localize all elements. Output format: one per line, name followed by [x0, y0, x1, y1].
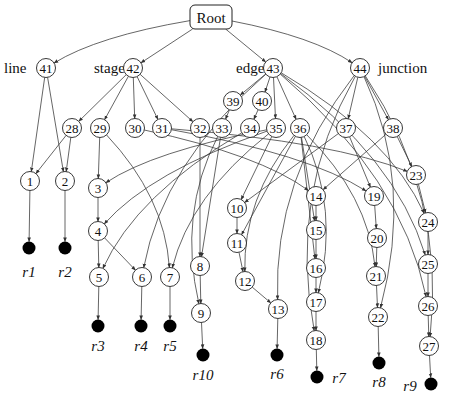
edge-38-to-23: [397, 137, 412, 167]
node-label: 42: [127, 61, 140, 76]
sink-r9: r9: [403, 378, 437, 395]
node-label: 27: [423, 339, 437, 354]
node-29: 29: [91, 119, 110, 138]
node-label: 30: [129, 121, 142, 136]
edge-42-to-28: [79, 75, 126, 122]
node-label: 28: [66, 121, 79, 136]
edge-41-to-1: [31, 77, 44, 171]
edge-root-to-43: [226, 29, 266, 62]
node-label: 34: [244, 121, 258, 136]
sink-label: r4: [134, 338, 148, 354]
sink-r8: r8: [372, 357, 386, 391]
node-15: 15: [307, 221, 326, 240]
sink-label: r9: [403, 378, 417, 394]
node-24: 24: [419, 213, 438, 232]
node-4: 4: [89, 222, 108, 241]
group-label-edge: edge: [236, 60, 265, 76]
edge-43-to-40: [265, 77, 270, 92]
edge-29-to-3: [98, 138, 99, 179]
edge-28-to-1: [36, 135, 66, 173]
edge-36-to-12: [245, 135, 294, 271]
edge-42-to-31: [137, 77, 158, 120]
node-label: 18: [310, 333, 323, 348]
node-label: 11: [231, 236, 244, 251]
node-34: 34: [241, 119, 260, 138]
edge-43-to-35: [274, 78, 276, 119]
node-label: 43: [267, 61, 280, 76]
edge-40-to-34: [254, 110, 258, 120]
edge-22-to-r8: [378, 327, 379, 357]
edge-28-to-2: [66, 137, 71, 171]
sink-label: r6: [270, 366, 284, 382]
sink-dot: [271, 349, 284, 362]
node-10: 10: [228, 199, 247, 218]
sink-dot: [197, 349, 210, 362]
edge-21-to-22: [377, 286, 378, 308]
sink-label: r8: [372, 374, 386, 390]
node-label: 24: [422, 215, 436, 230]
node-label: 41: [40, 61, 53, 76]
node-label: 3: [95, 181, 102, 196]
edge-43-to-6: [144, 74, 266, 268]
node-44: 44: [351, 59, 370, 78]
edge-13-to-r6: [277, 319, 278, 349]
node-label: 33: [216, 121, 229, 136]
node-37: 37: [337, 119, 356, 138]
node-3: 3: [89, 179, 108, 198]
node-label: 22: [372, 310, 385, 325]
edge-4-to-5: [98, 241, 99, 268]
node-label: 38: [387, 121, 400, 136]
sink-dot: [23, 242, 36, 255]
node-23: 23: [407, 166, 426, 185]
edge-35-to-10: [241, 137, 272, 200]
node-label: 40: [256, 94, 269, 109]
edge-30-to-14: [144, 130, 308, 190]
edge-38-to-14: [323, 134, 386, 189]
node-label: 29: [94, 121, 107, 136]
edge-27-to-r9: [430, 356, 431, 378]
edge-44-to-38: [365, 76, 389, 119]
node-40: 40: [253, 92, 272, 111]
node-9: 9: [192, 304, 211, 323]
sink-r4: r4: [134, 320, 148, 355]
sink-r10: r10: [193, 349, 214, 384]
edge-43-to-26: [280, 74, 426, 297]
sink-label: r1: [22, 264, 35, 280]
edge-6-to-r4: [141, 287, 142, 320]
node-35: 35: [267, 119, 286, 138]
node-label: 26: [422, 299, 436, 314]
sink-dot: [425, 378, 438, 391]
node-label: 14: [310, 189, 324, 204]
node-14: 14: [307, 187, 326, 206]
edge-33-to-8: [202, 137, 221, 256]
edge-11-to-12: [239, 252, 243, 271]
edge-41-to-2: [48, 77, 64, 171]
sink-r6: r6: [270, 349, 284, 383]
sink-label: r5: [163, 338, 177, 354]
sink-dot: [373, 357, 386, 370]
node-31: 31: [153, 119, 172, 138]
edge-42-to-30: [133, 78, 134, 119]
edge-18-to-r7: [316, 350, 317, 371]
node-18: 18: [307, 331, 326, 350]
root-label: Root: [196, 10, 226, 26]
nodes-layer: Rootlinestageedgejunction414243443940282…: [4, 5, 439, 394]
node-label: 5: [96, 270, 103, 285]
node-12: 12: [236, 272, 255, 291]
sink-dot: [92, 320, 105, 333]
node-43: 43: [264, 59, 283, 78]
node-42: 42: [124, 59, 143, 78]
edge-19-to-20: [375, 206, 377, 229]
sink-dot: [135, 320, 148, 333]
edge-root-to-44: [232, 21, 352, 63]
node-label: 10: [231, 201, 244, 216]
node-label: 2: [62, 174, 69, 189]
node-1: 1: [21, 172, 40, 191]
node-label: 16: [310, 261, 324, 276]
node-38: 38: [384, 119, 403, 138]
sink-r2: r2: [58, 242, 72, 281]
node-2: 2: [56, 172, 75, 191]
node-17: 17: [307, 293, 326, 312]
edge-4-to-6: [105, 238, 136, 270]
sink-label: r3: [91, 338, 104, 354]
